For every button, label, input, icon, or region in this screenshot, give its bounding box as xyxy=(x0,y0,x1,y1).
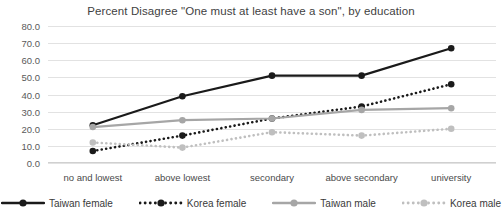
x-axis-labels: no and lowestabove lowestsecondaryabove … xyxy=(48,166,496,188)
legend-item-korea-male[interactable]: Korea male xyxy=(402,197,501,209)
legend-marker xyxy=(1,197,45,209)
chart-container: Percent Disagree "One must at least have… xyxy=(0,0,502,222)
data-point xyxy=(179,117,186,124)
legend-marker xyxy=(402,197,446,209)
plot-wrapper: 80.070.060.050.040.030.020.010.00.0 no a… xyxy=(0,26,502,171)
series-layer xyxy=(48,26,496,163)
plot-area xyxy=(48,26,496,163)
legend-label: Korea female xyxy=(187,198,246,209)
data-point xyxy=(448,105,455,112)
y-axis-tick: 50.0 xyxy=(22,72,41,83)
gridline xyxy=(48,163,496,164)
data-point xyxy=(269,72,276,79)
x-axis-tick: university xyxy=(406,172,496,183)
data-point xyxy=(358,132,365,139)
legend-label: Korea male xyxy=(450,198,501,209)
data-point xyxy=(90,148,97,155)
x-axis-tick: secondary xyxy=(227,172,317,183)
data-point xyxy=(448,125,455,132)
y-axis-tick: 40.0 xyxy=(22,89,41,100)
x-axis-tick: above secondary xyxy=(317,172,407,183)
data-point xyxy=(90,124,97,131)
data-point xyxy=(179,93,186,100)
y-axis-tick: 30.0 xyxy=(22,106,41,117)
x-axis-tick: no and lowest xyxy=(48,172,138,183)
y-axis-tick: 10.0 xyxy=(22,140,41,151)
legend-label: Taiwan female xyxy=(49,198,113,209)
legend-item-taiwan-female[interactable]: Taiwan female xyxy=(1,197,113,209)
y-axis-labels: 80.070.060.050.040.030.020.010.00.0 xyxy=(0,26,44,171)
y-axis-tick: 60.0 xyxy=(22,55,41,66)
y-axis-tick: 70.0 xyxy=(22,38,41,49)
data-point xyxy=(358,72,365,79)
data-point xyxy=(269,115,276,122)
data-point xyxy=(179,144,186,151)
x-axis-tick: above lowest xyxy=(138,172,228,183)
legend-marker xyxy=(139,197,183,209)
y-axis-tick: 0.0 xyxy=(27,158,40,169)
data-point xyxy=(269,129,276,136)
series-line xyxy=(93,48,451,125)
data-point xyxy=(448,45,455,52)
series-korea-male xyxy=(90,125,455,150)
y-axis-tick: 80.0 xyxy=(22,21,41,32)
legend-item-taiwan-male[interactable]: Taiwan male xyxy=(272,197,376,209)
legend-item-korea-female[interactable]: Korea female xyxy=(139,197,246,209)
legend-label: Taiwan male xyxy=(320,198,376,209)
data-point xyxy=(358,107,365,114)
legend-marker xyxy=(272,197,316,209)
y-axis-tick: 20.0 xyxy=(22,123,41,134)
chart-legend: Taiwan femaleKorea femaleTaiwan maleKore… xyxy=(0,191,502,215)
data-point xyxy=(90,139,97,146)
data-point xyxy=(179,132,186,139)
data-point xyxy=(448,81,455,88)
chart-title: Percent Disagree "One must at least have… xyxy=(0,5,502,17)
